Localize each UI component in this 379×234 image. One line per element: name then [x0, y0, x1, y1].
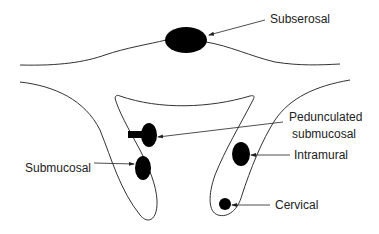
label-pedunculated-line1: Pedunculated	[289, 110, 362, 124]
pedunculated-stalk	[128, 131, 142, 138]
label-submucosal: Submucosal	[25, 161, 91, 175]
submucosal-leader	[94, 163, 134, 164]
label-cervical: Cervical	[275, 198, 318, 212]
label-subserosal: Subserosal	[270, 12, 330, 26]
pedunculated-submucosal-fibroid	[141, 123, 157, 147]
uterine-cavity-top	[115, 95, 254, 105]
submucosal-fibroid	[135, 156, 151, 180]
pedunculated-leader	[158, 122, 283, 137]
subserosal-leader	[209, 20, 265, 35]
uterine-wall-left	[20, 82, 157, 220]
label-intramural: Intramural	[294, 148, 348, 162]
subserosal-fibroid	[165, 27, 207, 53]
label-pedunculated-line2: submucosal	[292, 127, 356, 141]
intramural-fibroid	[232, 142, 250, 166]
fibroid-diagram: Subserosal Pedunculated submucosal Submu…	[0, 0, 379, 234]
cervical-fibroid	[219, 198, 231, 210]
